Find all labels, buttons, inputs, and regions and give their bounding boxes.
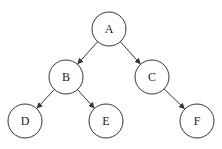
node-label: C xyxy=(148,70,156,84)
edge-b-e xyxy=(77,90,93,108)
node-b: B xyxy=(49,60,83,94)
edge-c-f xyxy=(164,89,184,109)
node-label: A xyxy=(105,22,114,36)
tree-diagram: ABCDEF xyxy=(0,0,222,149)
nodes-group: ABCDEF xyxy=(8,12,214,138)
node-c: C xyxy=(135,60,169,94)
node-label: F xyxy=(194,114,201,128)
node-a: A xyxy=(92,12,126,46)
node-e: E xyxy=(89,104,123,138)
node-d: D xyxy=(8,104,42,138)
node-label: E xyxy=(102,114,109,128)
edge-b-d xyxy=(37,89,54,107)
node-f: F xyxy=(180,104,214,138)
edge-a-b xyxy=(78,42,98,64)
edge-a-c xyxy=(120,42,140,64)
node-label: D xyxy=(21,114,30,128)
node-label: B xyxy=(62,70,70,84)
